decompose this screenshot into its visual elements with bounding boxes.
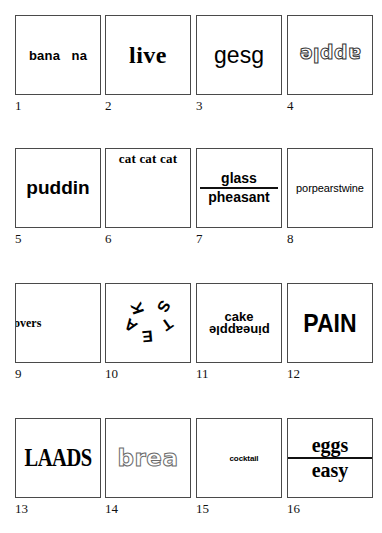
stimulus-cell-6: cat cat cat 6 [105,148,191,228]
stimulus-box-2: live [105,15,191,95]
stimulus-grid: of 27 bana na 1 live 2 gesg 3 apple [0,0,382,533]
stimulus-content-15: cocktail [197,419,281,497]
stimulus-letter-10-0: K [128,300,147,316]
stimulus-cell-1: bana na 1 [15,15,101,95]
stimulus-box-4: apple [287,15,373,95]
stimulus-content-9: overs [16,284,100,362]
stimulus-number-14: 14 [105,502,118,516]
stimulus-box-15: cocktail [196,418,282,498]
stimulus-content-3: gesg [197,16,281,94]
stimulus-number-12: 12 [287,367,300,381]
stimulus-letter-10-1: S [154,297,173,314]
stimulus-letter-10-2: T [158,315,175,334]
stimulus-word-14: brea [118,445,179,471]
stimulus-content-11: cake pineapple [197,284,281,362]
stimulus-word-4: apple [299,44,361,66]
stimulus-content-1: bana na [16,16,100,94]
stimulus-cell-13: LAADS 13 [15,418,101,498]
stimulus-numerator-7: glass [221,171,257,186]
stimulus-number-8: 8 [287,232,294,246]
stimulus-denominator-16: easy [312,460,349,481]
stimulus-content-4: apple [288,16,372,94]
stimulus-cell-8: porpearstwine 8 [287,148,373,228]
stimulus-box-10: KSTEA [105,283,191,363]
stimulus-cell-2: live 2 [105,15,191,95]
stimulus-cell-11: cake pineapple 11 [196,283,282,363]
stimulus-box-14: brea [105,418,191,498]
stimulus-content-6: cat cat cat [106,151,190,167]
stimulus-number-15: 15 [196,502,209,516]
stimulus-word-6: cat cat cat [119,151,178,167]
stimulus-content-5: puddin [16,149,100,227]
stimulus-number-1: 1 [15,99,22,113]
stimulus-cell-9: overs 9 [15,283,101,363]
stimulus-word-11-top: cake [225,310,254,323]
stimulus-content-8: porpearstwine [288,149,372,227]
stimulus-word-15: cocktail [230,454,259,463]
stimulus-cell-14: brea 14 [105,418,191,498]
stimulus-cell-12: PAIN 12 [287,283,373,363]
stimulus-number-4: 4 [287,99,294,113]
stimulus-cell-4: apple 4 [287,15,373,95]
stimulus-word-13: LAADS [24,444,91,472]
stimulus-number-10: 10 [105,367,118,381]
stimulus-cell-15: cocktail 15 [196,418,282,498]
stimulus-cell-5: puddin 5 [15,148,101,228]
stimulus-content-7: glass pheasant [197,149,281,227]
stimulus-word-8: porpearstwine [296,182,364,194]
stimulus-cell-3: gesg 3 [196,15,282,95]
stimulus-word-3: gesg [214,42,264,69]
stimulus-number-6: 6 [105,232,112,246]
stimulus-word-5: puddin [26,177,89,199]
stimulus-box-1: bana na [15,15,101,95]
stimulus-content-14: brea [106,419,190,497]
stimulus-word-1: bana na [29,48,87,63]
stimulus-box-11: cake pineapple [196,283,282,363]
stimulus-letter-10-3: E [141,328,153,345]
stimulus-numerator-16: eggs [312,435,349,456]
stimulus-denominator-7: pheasant [208,190,269,205]
stimulus-word-9: overs [15,316,41,331]
stimulus-content-16: eggs easy [288,419,372,497]
stimulus-cell-7: glass pheasant 7 [196,148,282,228]
stimulus-box-13: LAADS [15,418,101,498]
stimulus-content-12: PAIN [288,284,372,362]
stimulus-cell-16: eggs easy 16 [287,418,373,498]
stimulus-box-9: overs [15,283,101,363]
stimulus-box-5: puddin [15,148,101,228]
stimulus-box-16: eggs easy [287,418,373,498]
stimulus-number-5: 5 [15,232,22,246]
stimulus-box-7: glass pheasant [196,148,282,228]
stimulus-word-2: live [129,42,167,69]
stimulus-box-12: PAIN [287,283,373,363]
stimulus-number-3: 3 [196,99,203,113]
stimulus-number-9: 9 [15,367,22,381]
stimulus-word-11-bottom: pineapple [209,324,270,337]
stimulus-box-6: cat cat cat [105,148,191,228]
stimulus-box-8: porpearstwine [287,148,373,228]
stimulus-number-11: 11 [196,367,209,381]
stimulus-number-7: 7 [196,232,203,246]
stimulus-word-12: PAIN [303,309,356,338]
stimulus-content-13: LAADS [16,419,100,497]
stimulus-content-10: KSTEA [106,284,190,362]
stimulus-number-16: 16 [287,502,300,516]
stimulus-letter-10-4: A [121,315,140,335]
stimulus-content-2: live [106,16,190,94]
stimulus-cell-10: KSTEA 10 [105,283,191,363]
stimulus-number-2: 2 [105,99,112,113]
stimulus-box-3: gesg [196,15,282,95]
stimulus-number-13: 13 [15,502,28,516]
